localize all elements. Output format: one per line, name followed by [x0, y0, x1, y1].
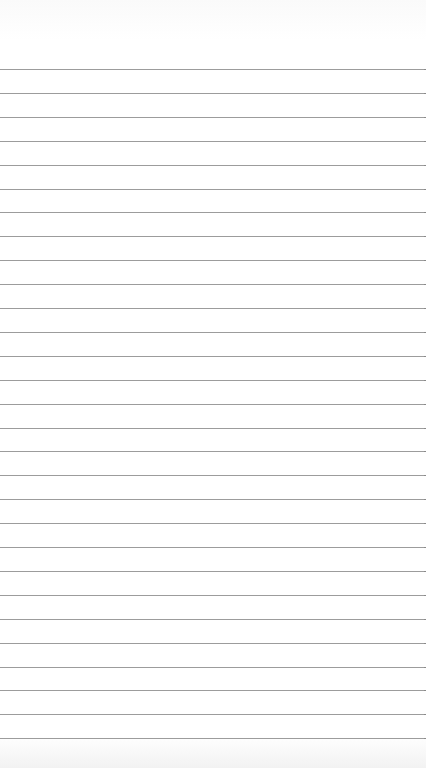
ruled-line [0, 260, 424, 261]
ruled-line [0, 619, 424, 620]
ruled-line [0, 428, 424, 429]
ruled-line [0, 595, 424, 596]
ruled-line [0, 643, 424, 644]
ruled-line [0, 738, 424, 739]
ruled-line [0, 667, 424, 668]
lined-paper [0, 0, 426, 768]
ruled-line [0, 117, 424, 118]
ruled-line [0, 332, 424, 333]
ruled-line [0, 93, 424, 94]
ruled-line [0, 380, 424, 381]
ruled-line [0, 308, 424, 309]
ruled-line [0, 236, 424, 237]
ruled-line [0, 189, 424, 190]
ruled-line [0, 547, 424, 548]
ruled-line [0, 571, 424, 572]
ruled-line [0, 499, 424, 500]
ruled-line [0, 165, 424, 166]
ruled-line [0, 212, 424, 213]
ruled-line [0, 404, 424, 405]
ruled-line [0, 284, 424, 285]
ruled-line [0, 141, 424, 142]
ruled-line [0, 714, 424, 715]
ruled-line [0, 690, 424, 691]
ruled-line [0, 475, 424, 476]
ruled-line [0, 451, 424, 452]
ruled-line [0, 356, 424, 357]
ruled-line [0, 523, 424, 524]
ruled-line [0, 69, 424, 70]
